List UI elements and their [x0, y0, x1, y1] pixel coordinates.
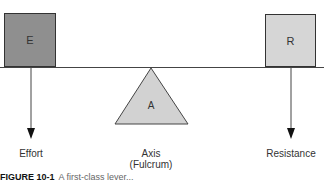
fulcrum-triangle [115, 68, 188, 124]
effort-arrow-icon [27, 68, 35, 139]
effort-label: Effort [6, 148, 56, 160]
resistance-box-letter: R [265, 35, 316, 47]
resistance-arrow-icon [287, 68, 295, 139]
effort-box-letter: E [4, 34, 56, 46]
figure-caption: FIGURE 10-1A first-class lever... [0, 172, 134, 180]
fulcrum-letter: A [131, 100, 171, 112]
figure-caption-text: A first-class lever... [59, 172, 134, 180]
axis-sublabel: (Fulcrum) [116, 159, 186, 171]
figure-number: FIGURE 10-1 [0, 172, 55, 180]
resistance-label: Resistance [256, 148, 324, 160]
